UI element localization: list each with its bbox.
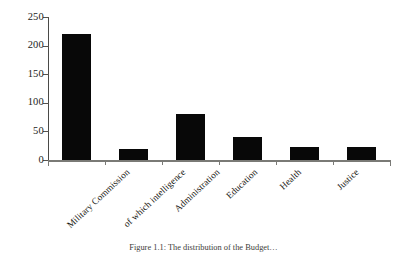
x-label-health: Health [277, 167, 302, 192]
bar-justice [347, 147, 376, 160]
bar-health [290, 147, 319, 160]
bar-administration [176, 114, 205, 160]
y-tick-label-150: 150 [4, 69, 44, 80]
bar-education [233, 137, 262, 160]
bar-chart-figure: 050100150200250 Military Commissionof wh… [0, 0, 407, 255]
x-label-education: Education [224, 167, 259, 201]
y-tick-label-50: 50 [4, 126, 44, 137]
y-tick-label-200: 200 [4, 40, 44, 51]
bars-container [48, 17, 390, 160]
x-label-military-commission: Military Commission [64, 167, 131, 230]
y-tick-label-250: 250 [4, 12, 44, 23]
x-label-justice: Justice [334, 167, 360, 192]
x-label-of-which-intelligence: of which intelligence [121, 167, 187, 229]
bar-of-which-intelligence [119, 149, 148, 160]
y-tick-label-100: 100 [4, 97, 44, 108]
bar-military-commission [62, 34, 91, 160]
figure-caption: Figure 1.1: The distribution of the Budg… [0, 243, 407, 252]
x-axis-category-labels: Military Commissionof which intelligence… [0, 163, 407, 233]
